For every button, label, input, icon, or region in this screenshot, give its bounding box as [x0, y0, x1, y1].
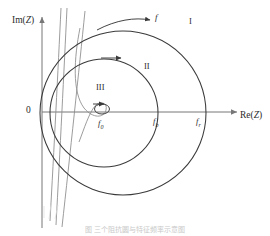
- region-label-III: III: [96, 83, 105, 92]
- fb-sub: b: [155, 122, 158, 128]
- frequency-label-f0: f0: [98, 119, 103, 130]
- direction-f-label: f: [155, 13, 158, 22]
- steep-branch-1: [50, 8, 61, 221]
- y-axis-label: Im(Z): [12, 16, 34, 26]
- f0-sub: 0: [100, 124, 103, 130]
- figure-caption: 图 三个阻抗圆与特征频率示意图: [0, 224, 270, 234]
- arrow-outer-circle: [97, 19, 150, 30]
- caption-artifacts: [44, 205, 58, 219]
- origin-label: 0: [26, 106, 31, 116]
- frequency-label-fr: fr: [196, 117, 201, 128]
- fr-sub: r: [198, 122, 200, 128]
- nyquist-figure: Im(Z) Re(Z) 0 I II III f f0 fb fr 图 三个阻抗…: [0, 0, 270, 236]
- nyquist-plot-svg: [0, 0, 270, 236]
- circle-region-II: [50, 59, 158, 167]
- x-axis-label: Re(Z): [240, 111, 262, 121]
- frequency-label-fb: fb: [153, 117, 158, 128]
- steep-branches-group: [50, 8, 85, 227]
- region-label-II: II: [144, 62, 150, 71]
- region-label-I: I: [189, 17, 192, 26]
